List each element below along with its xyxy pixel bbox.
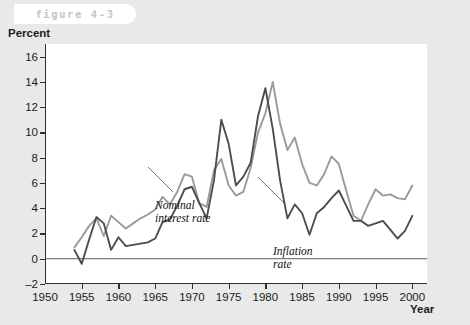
y-axis-tick-label: 2 — [32, 227, 38, 239]
series-line — [74, 88, 412, 264]
x-axis-tick — [118, 284, 119, 289]
x-axis-tick — [339, 284, 340, 289]
figure-number-tag: figure 4-3 — [14, 4, 136, 24]
x-axis-tick-label: 1960 — [106, 291, 132, 303]
x-axis-tick — [229, 284, 230, 289]
x-axis-tick — [412, 284, 413, 289]
y-axis-tick — [40, 284, 45, 285]
series-lines — [74, 82, 412, 264]
x-axis-tick-label: 1990 — [326, 291, 352, 303]
x-axis-tick-label: 1985 — [289, 291, 315, 303]
y-axis-tick-label: 4 — [32, 202, 38, 214]
figure-number-label: figure 4-3 — [35, 8, 114, 20]
series-label-inflation: Inflation rate — [273, 245, 313, 271]
x-axis-tick — [265, 284, 266, 289]
x-axis-tick — [155, 284, 156, 289]
x-axis-tick-label: 1975 — [216, 291, 242, 303]
x-axis-tick-label: 1995 — [363, 291, 389, 303]
annotation-leader-line — [148, 167, 173, 192]
y-axis-tick-label: 8 — [32, 152, 38, 164]
x-axis-tick-label: 1950 — [32, 291, 58, 303]
x-axis-tick-label: 2000 — [400, 291, 426, 303]
x-axis-tick — [376, 284, 377, 289]
x-axis-tick — [302, 284, 303, 289]
plot-inner: –202468101214161950195519601965197019751… — [45, 44, 427, 284]
chart-svg — [45, 44, 427, 284]
y-axis-tick-label: 6 — [32, 177, 38, 189]
series-label-nominal: Nominal interest rate — [155, 199, 210, 225]
y-axis-tick-label: –2 — [25, 278, 38, 290]
y-axis-tick-label: 14 — [25, 76, 38, 88]
plot-area: –202468101214161950195519601965197019751… — [45, 44, 427, 284]
x-axis-tick-label: 1970 — [179, 291, 205, 303]
y-axis-title: Percent — [8, 27, 50, 39]
y-axis-tick-label: 12 — [25, 101, 38, 113]
x-axis-tick-label: 1965 — [142, 291, 168, 303]
y-axis-tick-label: 0 — [32, 253, 38, 265]
x-axis-tick — [82, 284, 83, 289]
series-line — [74, 82, 412, 247]
x-axis-tick-label: 1955 — [69, 291, 95, 303]
y-axis-tick-label: 16 — [25, 51, 38, 63]
figure-card: figure 4-3 Percent Year –202468101214161… — [0, 0, 470, 325]
x-axis-tick-label: 1980 — [253, 291, 279, 303]
x-axis-title: Year — [410, 303, 434, 315]
y-axis-tick-label: 10 — [25, 126, 38, 138]
x-axis-tick — [192, 284, 193, 289]
